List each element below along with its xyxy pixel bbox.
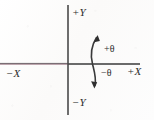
angle-label-negative-theta: −θ [101, 68, 111, 78]
coordinate-axes-figure: +Y −Y −X +X +θ −θ [0, 0, 154, 120]
angle-label-positive-theta: +θ [104, 44, 114, 54]
rotation-arc-path [91, 38, 96, 86]
axis-label-negative-x: −X [6, 68, 20, 79]
axis-label-negative-y: −Y [72, 97, 86, 108]
rotation-arrow-head-negative [91, 81, 97, 88]
axis-label-positive-y: +Y [72, 7, 86, 18]
axis-label-positive-x: +X [127, 66, 141, 77]
